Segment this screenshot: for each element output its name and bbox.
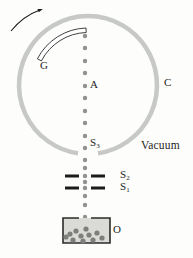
slit-s1-right-bar [91, 187, 105, 190]
beam-dot [83, 166, 87, 170]
label-axis-a: A [90, 79, 98, 90]
label-slit-s1: S1 [120, 181, 130, 192]
slit-s2-right-bar [91, 175, 105, 178]
oven-particle-dot [80, 238, 85, 243]
beam-dot [83, 59, 87, 63]
beam-dot [83, 203, 87, 207]
label-drum-g: G [40, 60, 48, 71]
label-slit-s2: S2 [120, 169, 130, 180]
beam-dot [83, 71, 87, 75]
oven-particle-dot [94, 230, 99, 235]
beam-dot [83, 34, 87, 38]
label-chamber-c: C [164, 77, 171, 88]
molecular-beam-dots [83, 34, 87, 219]
beam-dot [83, 46, 87, 50]
diagram-canvas [0, 0, 193, 258]
label-slit-s3-sub: 3 [96, 142, 100, 150]
slit-s1-left-bar [65, 187, 79, 190]
beam-dot [83, 146, 87, 150]
rotation-arrowhead [38, 9, 43, 12]
beam-dot [83, 158, 87, 162]
beam-dot [83, 84, 87, 88]
oven-particle-dot [63, 234, 68, 239]
oven-particle-dot [86, 232, 91, 237]
label-oven-o: O [113, 224, 121, 235]
oven-particle-dot [78, 233, 83, 238]
rotation-arrow [11, 10, 41, 32]
beam-dot [83, 121, 87, 125]
label-vacuum: Vacuum [141, 140, 180, 152]
oven-particle-dot [83, 226, 88, 231]
label-slit-s1-sub: 1 [126, 186, 130, 194]
slit-s2-left-bar [65, 175, 79, 178]
oven-particle-dot [73, 228, 78, 233]
beam-dot [83, 134, 87, 138]
beam-dot [83, 194, 87, 198]
beam-dot [83, 174, 87, 178]
oven-particle-dot [99, 235, 104, 240]
beam-dot [83, 96, 87, 100]
beam-dot [83, 109, 87, 113]
beam-dot [83, 180, 87, 184]
chamber-wall-circle [19, 16, 157, 153]
oven-particle-dot [90, 237, 95, 242]
beam-dot [83, 186, 87, 190]
oven-particle-dot [70, 237, 75, 242]
label-slit-s3: S3 [90, 137, 100, 148]
apparatus-diagram: G A C Vacuum S3 S2 S1 O [0, 0, 193, 258]
